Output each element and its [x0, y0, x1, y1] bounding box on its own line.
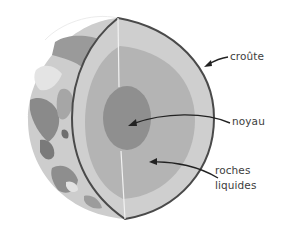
label-core: noyau [232, 114, 265, 129]
label-mantle-line2: liquides [215, 178, 256, 193]
label-mantle-line1: roches [215, 163, 250, 178]
core-layer [103, 86, 151, 150]
label-crust: croûte [230, 49, 264, 64]
